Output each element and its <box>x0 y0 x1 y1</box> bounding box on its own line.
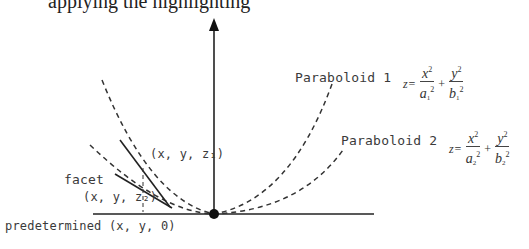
exponent: 2 <box>428 65 432 74</box>
exponent: 2 <box>430 85 434 94</box>
exponent: 2 <box>457 65 461 74</box>
denominator-base: b <box>495 151 502 166</box>
paraboloid-1-label: Paraboloid 1 <box>295 70 391 85</box>
plus-sign: + <box>438 77 445 92</box>
denominator-base: a <box>466 151 473 166</box>
facet-label: facet <box>64 172 104 187</box>
origin-point <box>209 209 219 219</box>
formula-1: z= x2 a12 + y2 b12 <box>403 62 467 106</box>
exponent: 2 <box>476 150 480 159</box>
subscript: 2 <box>502 159 506 167</box>
exponent: 2 <box>503 130 507 139</box>
exponent: 2 <box>460 85 464 94</box>
plus-sign: + <box>484 142 491 157</box>
formula-2: z= x2 a22 + y2 b22 <box>449 127 513 171</box>
formula-1-y-fraction: y2 b12 <box>447 62 466 106</box>
point-z2-label: (x, y, z₂) <box>83 190 157 204</box>
formula-2-x-fraction: x2 a22 <box>464 127 483 171</box>
point-z1-label: (x, y, z₁) <box>150 147 224 161</box>
formula-2-y-fraction: y2 b22 <box>493 127 512 171</box>
denominator-base: b <box>449 86 456 101</box>
exponent: 2 <box>506 150 510 159</box>
denominator-base: a <box>420 86 427 101</box>
paraboloid-2-label: Paraboloid 2 <box>341 133 437 148</box>
subscript: 1 <box>427 94 431 102</box>
paraboloid-diagram <box>0 0 529 249</box>
formula-1-lhs: z= <box>403 77 416 92</box>
formula-2-lhs: z= <box>449 142 462 157</box>
subscript: 1 <box>456 94 460 102</box>
subscript: 2 <box>473 159 477 167</box>
predetermined-label: predetermined (x, y, 0) <box>5 219 176 233</box>
exponent: 2 <box>474 130 478 139</box>
arrowhead-icon <box>209 18 219 31</box>
formula-1-x-fraction: x2 a12 <box>418 62 437 106</box>
